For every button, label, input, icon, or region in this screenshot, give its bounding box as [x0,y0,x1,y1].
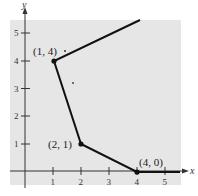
vertex-4-0 [134,169,139,174]
vertex-2-1 [78,141,83,146]
x-tick-5: 5 [163,177,168,187]
y-tick-3: 3 [14,84,19,94]
label-2-1: (2, 1) [48,138,72,151]
chart: y x 1 2 3 4 5 1 2 3 4 5 (1, 4) (2, 1) [0,0,198,196]
label-1-4: (1, 4) [33,45,57,58]
x-axis-arrow-icon [182,169,189,174]
y-tick-2: 2 [14,111,19,121]
vertex-1-4 [51,58,56,63]
y-axis-label: y [21,0,27,10]
label-4-0: (4, 0) [139,156,163,169]
stray-dot [64,50,66,52]
x-tick-1: 1 [51,177,56,187]
x-axis-label: x [189,165,195,176]
x-tick-4: 4 [135,177,140,187]
x-tick-3: 3 [107,177,112,187]
x-tick-2: 2 [79,177,84,187]
y-tick-5: 5 [14,28,19,38]
stray-dot [72,82,74,84]
y-tick-4: 4 [14,56,19,66]
y-tick-1: 1 [14,139,19,149]
